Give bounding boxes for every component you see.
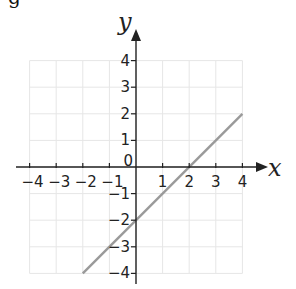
x-axis-arrow-icon [256,162,268,172]
origin-label: 0 [123,152,133,170]
y-tick-label: 3 [120,78,130,96]
x-tick-label: −2 [75,173,97,191]
x-tick-label: 2 [184,173,194,191]
y-axis-label: y [117,8,132,36]
y-tick-label: −1 [108,185,130,203]
x-tick-label: 4 [238,173,248,191]
y-tick-label: 4 [120,52,130,70]
axes [16,29,268,284]
x-tick-label: 3 [211,173,221,191]
x-tick-label: −3 [48,173,70,191]
y-tick-label: −2 [108,211,130,229]
coordinate-plane: g −4−3−2−101234 −4−3−2−11234 x y [0,0,296,289]
x-tick-label: −4 [22,173,44,191]
y-tick-label: 2 [120,105,130,123]
top-fragment-glyph: g [8,0,21,9]
x-tick-labels: −4−3−2−101234 [22,152,248,191]
y-tick-label: −3 [108,238,130,256]
x-axis-label: x [268,154,282,182]
x-tick-label: 1 [158,173,168,191]
y-axis-arrow-icon [131,29,141,41]
y-tick-label: −4 [108,264,130,282]
y-tick-label: 1 [120,131,130,149]
